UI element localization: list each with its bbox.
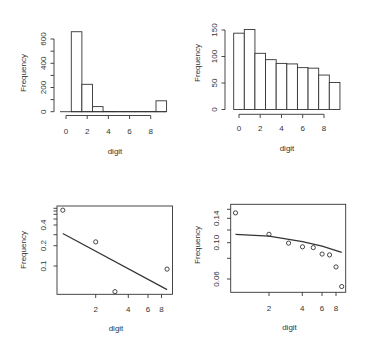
data-point: [61, 208, 65, 212]
x-axis: 2 4 6 8 digit: [267, 292, 339, 331]
y-tick-label: 0.2: [39, 240, 48, 252]
y-tick-label: 400: [39, 56, 48, 70]
panel-bottom-left-loglog: 2 4 6 8 digit 0.1 0.2 0.4 Frequency: [19, 206, 173, 333]
y-tick-label: 0.10: [212, 234, 221, 250]
x-tick-label: 4: [106, 127, 111, 136]
y-tick-label: 100: [210, 49, 219, 63]
histogram-bar: [287, 64, 298, 110]
x-tick-label: 6: [300, 124, 305, 133]
y-tick-label: 0.4: [39, 219, 48, 231]
data-point: [94, 240, 98, 244]
histogram-bars: [234, 29, 340, 109]
chart-figure: 0 2 4 6 8 digit 0 200 400 600 Freq: [0, 0, 365, 346]
y-tick-label: 600: [39, 32, 48, 46]
histogram-bar: [329, 82, 340, 109]
histogram-bar: [255, 53, 266, 109]
y-axis: 0 50 100 150 Frequency: [193, 23, 225, 112]
data-point: [311, 246, 315, 250]
x-tick-label: 0: [237, 124, 242, 133]
plot-canvas: 0 2 4 6 8 digit 0 200 400 600 Freq: [0, 0, 365, 346]
x-tick-label: 4: [300, 304, 305, 313]
x-tick-label: 2: [93, 305, 98, 314]
y-tick-label: 50: [210, 78, 219, 87]
y-axis: 0.1 0.2 0.4 Frequency: [19, 208, 57, 271]
x-tick-label: 8: [148, 127, 153, 136]
fit-line: [63, 234, 167, 290]
y-tick-label: 0: [39, 109, 48, 114]
data-point: [334, 265, 338, 269]
y-axis-label: Frequency: [19, 54, 28, 92]
histogram-bar: [308, 68, 319, 109]
x-axis: 2 4 6 8 digit: [93, 294, 164, 333]
data-points: [233, 211, 343, 289]
data-point: [113, 290, 117, 294]
panel-top-left-histogram: 0 2 4 6 8 digit 0 200 400 600 Freq: [19, 32, 167, 156]
data-point: [165, 267, 169, 271]
x-tick-label: 6: [320, 304, 325, 313]
data-point: [340, 284, 344, 288]
y-tick-label: 150: [210, 23, 219, 37]
x-tick-label: 2: [258, 124, 263, 133]
x-tick-label: 4: [279, 124, 284, 133]
y-axis: 0 200 400 600 Frequency: [19, 32, 54, 114]
x-axis-label: digit: [282, 323, 297, 332]
histogram-bar: [71, 32, 82, 112]
histogram-bar: [276, 63, 287, 109]
y-tick-label: 200: [39, 80, 48, 94]
y-axis-label: Frequency: [193, 226, 202, 264]
x-tick-label: 2: [85, 127, 90, 136]
histogram-bar: [297, 68, 308, 110]
y-axis: 0.14 0.10 0.06 Frequency: [193, 209, 231, 286]
y-axis-label: Frequency: [193, 44, 202, 82]
fit-line: [236, 234, 342, 252]
histogram-bar: [244, 29, 255, 109]
y-tick-label: 0.06: [212, 271, 221, 287]
histogram-bars: [71, 32, 166, 112]
x-axis: 0 2 4 6 8 digit: [237, 114, 327, 153]
y-axis-label: Frequency: [19, 231, 28, 269]
data-point: [320, 252, 324, 256]
y-tick-label: 0.14: [212, 210, 221, 226]
x-tick-label: 0: [64, 127, 69, 136]
data-points: [61, 208, 169, 294]
x-tick-label: 8: [334, 304, 339, 313]
data-point: [233, 211, 237, 215]
histogram-bar: [234, 33, 245, 109]
histogram-bar: [319, 75, 330, 109]
x-axis: 0 2 4 6 8 digit: [64, 116, 154, 157]
x-tick-label: 6: [127, 127, 132, 136]
panel-bottom-right-loglog: 2 4 6 8 digit 0.14 0.10 0.06 Frequency: [193, 204, 346, 331]
data-point: [286, 241, 290, 245]
data-point: [300, 245, 304, 249]
x-tick-label: 6: [146, 305, 151, 314]
panel-top-right-histogram: 0 2 4 6 8 digit 0 50 100 150 Frequency: [193, 23, 340, 153]
y-tick-label: 0: [210, 107, 219, 112]
x-axis-label: digit: [108, 147, 123, 156]
histogram-bar: [82, 84, 93, 111]
plot-box: [57, 206, 173, 294]
data-point: [327, 253, 331, 257]
histogram-bar: [92, 107, 103, 112]
x-tick-label: 8: [159, 305, 164, 314]
x-axis-label: digit: [280, 144, 295, 153]
x-tick-label: 8: [322, 124, 327, 133]
histogram-bar: [156, 101, 167, 112]
y-tick-label: 0.1: [39, 260, 48, 272]
x-tick-label: 4: [126, 305, 131, 314]
histogram-bar: [266, 60, 277, 110]
x-axis-label: digit: [109, 324, 124, 333]
x-tick-label: 2: [267, 304, 272, 313]
